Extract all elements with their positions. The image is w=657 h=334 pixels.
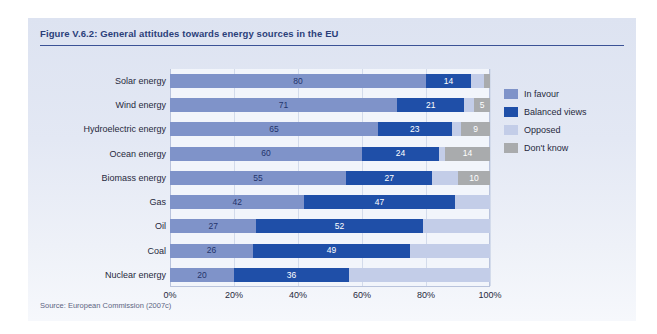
x-axis-tick-label: 0% [163, 290, 176, 300]
bar-segment-dont-know: 10 [458, 171, 490, 185]
legend-item: Don't know [504, 140, 624, 156]
table-row: Coal2649 [38, 239, 624, 263]
source-note: Source: European Commission (2007c) [40, 301, 171, 310]
bar-segment-opposed [410, 244, 490, 258]
bar-segment-in-favour: 26 [170, 244, 253, 258]
bar-segment-dont-know: 9 [461, 122, 490, 136]
chart-legend: In favourBalanced viewsOpposedDon't know [504, 86, 624, 158]
stacked-bar: 552710 [38, 171, 624, 185]
legend-swatch-balanced-views [504, 107, 518, 117]
bar-segment-opposed [464, 98, 474, 112]
bar-segment-balanced-views: 14 [426, 74, 471, 88]
bar-segment-balanced-views: 24 [362, 147, 439, 161]
bar-segment-balanced-views: 23 [378, 122, 452, 136]
legend-label: Don't know [524, 143, 568, 153]
bar-segment-opposed [423, 219, 490, 233]
bar-segment-in-favour: 55 [170, 171, 346, 185]
bar-segment-balanced-views: 27 [346, 171, 432, 185]
bar-segment-dont-know: 5 [474, 98, 490, 112]
bar-segment-balanced-views: 49 [253, 244, 410, 258]
bar-segment-in-favour: 80 [170, 74, 426, 88]
legend-label: Balanced views [524, 107, 587, 117]
bar-segment-opposed [455, 195, 490, 209]
bar-segment-dont-know: 14 [445, 147, 490, 161]
stacked-bar: 2036 [38, 268, 624, 282]
bar-segment-opposed [471, 74, 484, 88]
bar-segment-balanced-views: 47 [304, 195, 454, 209]
legend-item: Opposed [504, 122, 624, 138]
stacked-bar: 2649 [38, 244, 624, 258]
bar-segment-balanced-views: 52 [256, 219, 422, 233]
legend-item: Balanced views [504, 104, 624, 120]
x-axis-tick-label: 80% [417, 290, 435, 300]
bar-segment-in-favour: 27 [170, 219, 256, 233]
page-title: Figure V.6.2: General attitudes towards … [38, 26, 624, 39]
bar-segment-in-favour: 65 [170, 122, 378, 136]
bar-segment-dont-know [484, 74, 490, 88]
bar-segment-balanced-views: 21 [397, 98, 464, 112]
legend-swatch-opposed [504, 125, 518, 135]
bar-segment-opposed [432, 171, 458, 185]
legend-swatch-dont-know [504, 143, 518, 153]
bar-segment-in-favour: 20 [170, 268, 234, 282]
bar-segment-opposed [452, 122, 462, 136]
table-row: Gas4247 [38, 190, 624, 214]
x-axis-tick-label: 60% [353, 290, 371, 300]
stacked-bar: 2752 [38, 219, 624, 233]
legend-label: In favour [524, 89, 559, 99]
stacked-bar: 4247 [38, 195, 624, 209]
bar-segment-balanced-views: 36 [234, 268, 349, 282]
bar-segment-in-favour: 71 [170, 98, 397, 112]
legend-item: In favour [504, 86, 624, 102]
x-axis-tick-label: 100% [478, 290, 501, 300]
bar-segment-in-favour: 60 [170, 147, 362, 161]
figure-title-bar: Figure V.6.2: General attitudes towards … [38, 26, 624, 50]
table-row: Biomass energy552710 [38, 166, 624, 190]
legend-swatch-in-favour [504, 89, 518, 99]
figure-panel: Figure V.6.2: General attitudes towards … [28, 18, 636, 321]
table-row: Nuclear energy2036 [38, 263, 624, 287]
title-divider [40, 45, 624, 46]
x-axis-tick-label: 40% [289, 290, 307, 300]
legend-label: Opposed [524, 125, 561, 135]
bar-segment-opposed [349, 268, 490, 282]
chart-area: Solar energy8014Wind energy71215Hydroele… [38, 66, 624, 311]
table-row: Oil2752 [38, 214, 624, 238]
bar-segment-in-favour: 42 [170, 195, 304, 209]
x-axis-tick-label: 20% [225, 290, 243, 300]
